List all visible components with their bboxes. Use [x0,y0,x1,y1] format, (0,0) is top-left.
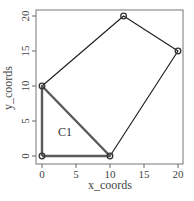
x-tick-label: 0 [39,168,45,180]
x-tick-label: 15 [139,168,151,180]
x-tick-label: 5 [73,168,79,180]
x-axis-label: x_coords [88,178,132,192]
x-tick-label: 20 [173,168,185,180]
annotation-label: C1 [58,125,72,139]
y-axis-label: y_coords [1,66,15,110]
y-axis-ticks: 05101520 [19,10,36,159]
series-C1-line [42,86,110,156]
scatter-line-chart: 05101520 05101520 C1 x_coords y_coords [0,0,194,201]
y-tick-label: 20 [19,10,31,22]
plot-box [36,10,183,164]
y-tick-label: 15 [19,45,31,57]
y-tick-label: 10 [19,80,31,92]
y-tick-label: 5 [19,118,31,124]
y-tick-label: 0 [19,153,31,159]
annotation-layer: C1 [58,125,72,139]
